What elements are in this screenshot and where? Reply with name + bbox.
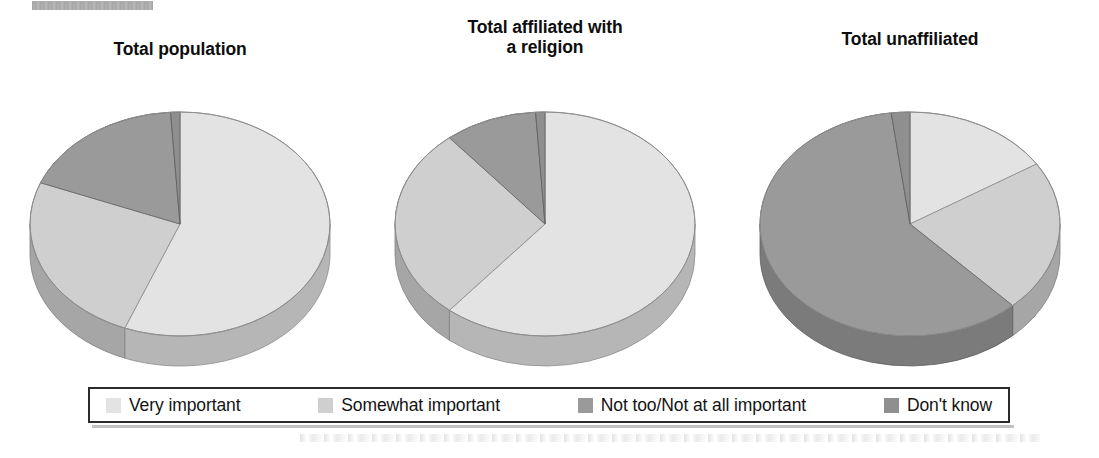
scan-artifact (300, 434, 1040, 442)
pie-panel-total-unaffiliated: Total unaffiliated (740, 0, 1080, 380)
pie-chart-group: Total population Total affiliated with a… (0, 0, 1099, 380)
legend-swatch-dont-know (884, 398, 899, 413)
legend-swatch-not-too-not-at-all-important (578, 398, 593, 413)
legend-item-dont-know: Don't know (884, 395, 992, 416)
pie-panel-total-affiliated: Total affiliated with a religion (375, 0, 715, 380)
legend-label-not-too-not-at-all-important: Not too/Not at all important (601, 395, 806, 416)
pie-chart-total-unaffiliated (740, 74, 1080, 374)
pie-title-1: Total affiliated with a religion (375, 18, 715, 57)
chart-legend: Very important Somewhat important Not to… (88, 387, 1010, 423)
pie-title-0: Total population (10, 40, 350, 60)
legend-item-very-important: Very important (106, 395, 240, 416)
pie-title-2: Total unaffiliated (740, 30, 1080, 50)
pie-chart-total-affiliated (375, 74, 715, 374)
legend-swatch-very-important (106, 398, 121, 413)
legend-label-somewhat-important: Somewhat important (341, 395, 500, 416)
legend-item-not-too-not-at-all-important: Not too/Not at all important (578, 395, 806, 416)
pie-panel-total-population: Total population (10, 0, 350, 380)
legend-label-dont-know: Don't know (907, 395, 992, 416)
legend-drop-shadow (92, 425, 1014, 428)
legend-item-somewhat-important: Somewhat important (318, 395, 500, 416)
pie-chart-total-population (10, 74, 350, 374)
legend-label-very-important: Very important (129, 395, 240, 416)
legend-swatch-somewhat-important (318, 398, 333, 413)
